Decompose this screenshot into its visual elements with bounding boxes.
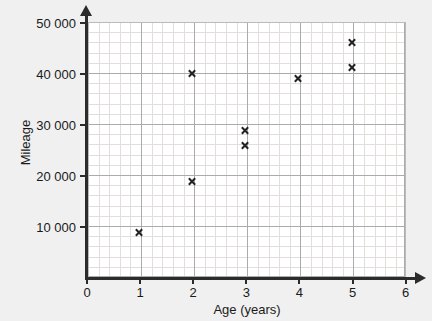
y-tick-30000 (80, 124, 87, 126)
x-tick-label-4: 4 (284, 285, 314, 300)
data-point-marker (347, 63, 356, 72)
x-tick-label-0: 0 (72, 285, 102, 300)
scatter-chart: 0 1 2 3 4 5 6 50 000 40 000 30 000 20 00… (0, 0, 432, 321)
y-tick-label-30000: 30 000 (6, 118, 76, 133)
x-tick-label-3: 3 (231, 285, 261, 300)
x-axis-title: Age (years) (88, 302, 406, 317)
x-tick-label-1: 1 (125, 285, 155, 300)
data-point-marker (241, 141, 250, 150)
y-tick-label-10000: 10 000 (6, 220, 76, 235)
x-tick-2 (192, 277, 194, 284)
x-tick-3 (245, 277, 247, 284)
y-tick-20000 (80, 175, 87, 177)
y-axis-arrow-icon (80, 5, 92, 16)
y-tick-10000 (80, 226, 87, 228)
y-tick-label-50000: 50 000 (6, 16, 76, 31)
data-point-marker (188, 69, 197, 78)
x-tick-0 (86, 277, 88, 284)
x-tick-4 (298, 277, 300, 284)
plot-area (88, 22, 406, 278)
x-tick-label-6: 6 (391, 285, 421, 300)
y-tick-50000 (80, 22, 87, 24)
x-tick-label-5: 5 (338, 285, 368, 300)
data-point-marker (135, 228, 144, 237)
y-axis-line (85, 14, 88, 279)
y-axis-title: Mileage (18, 98, 33, 188)
y-tick-label-20000: 20 000 (6, 169, 76, 184)
x-axis-line (85, 277, 417, 280)
data-point-marker (241, 126, 250, 135)
x-tick-1 (139, 277, 141, 284)
data-point-marker (188, 177, 197, 186)
y-tick-label-40000: 40 000 (6, 67, 76, 82)
x-tick-6 (405, 277, 407, 284)
x-tick-label-2: 2 (178, 285, 208, 300)
x-tick-5 (352, 277, 354, 284)
data-point-marker (347, 38, 356, 47)
x-axis-arrow-icon (415, 272, 426, 284)
data-point-marker (294, 74, 303, 83)
y-tick-40000 (80, 73, 87, 75)
